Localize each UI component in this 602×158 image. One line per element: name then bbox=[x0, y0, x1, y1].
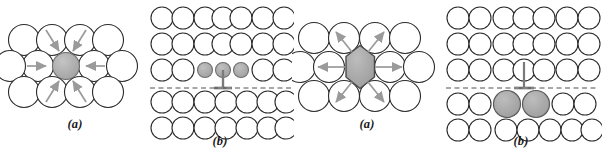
host-atom bbox=[578, 59, 600, 81]
host-atom bbox=[252, 33, 274, 55]
host-atom bbox=[151, 7, 173, 29]
panel-3-diagram bbox=[292, 0, 442, 130]
host-atom bbox=[273, 33, 294, 55]
host-atom bbox=[273, 7, 294, 29]
impurity-atom-large bbox=[494, 91, 521, 118]
host-atom bbox=[194, 91, 216, 113]
host-atom bbox=[493, 59, 515, 81]
host-atom bbox=[273, 59, 294, 81]
host-atom bbox=[299, 23, 330, 54]
host-atom bbox=[447, 33, 469, 55]
host-atom bbox=[578, 7, 600, 29]
figure-root: (a) bbox=[0, 0, 602, 158]
panel-smaller-atom-local: (a) bbox=[0, 0, 150, 158]
host-atom bbox=[151, 59, 173, 81]
host-atom bbox=[172, 7, 194, 29]
host-atom bbox=[299, 81, 330, 112]
impurity-atom-small bbox=[53, 53, 80, 80]
host-atom bbox=[533, 59, 555, 81]
panel-caption: (b) bbox=[146, 134, 294, 149]
panel-larger-atom-local: (a) bbox=[292, 0, 442, 158]
host-atom bbox=[493, 33, 515, 55]
host-atom bbox=[447, 7, 469, 29]
lattice-row bbox=[151, 91, 294, 113]
host-atom bbox=[556, 7, 578, 29]
host-atom bbox=[493, 7, 515, 29]
host-atom bbox=[172, 33, 194, 55]
host-atom bbox=[556, 33, 578, 55]
host-atom bbox=[93, 77, 124, 108]
host-atom bbox=[236, 91, 258, 113]
host-atom bbox=[533, 33, 555, 55]
panel-smaller-atom-lattice: (b) bbox=[146, 0, 294, 158]
host-atom bbox=[552, 93, 574, 115]
host-atom bbox=[390, 81, 421, 112]
host-atom bbox=[469, 7, 491, 29]
impurity-atom-small bbox=[198, 63, 213, 78]
host-atom bbox=[574, 93, 596, 115]
lattice-row bbox=[447, 33, 600, 55]
atom-row-bottom bbox=[9, 77, 124, 108]
host-atom bbox=[9, 77, 40, 108]
panel-2-diagram bbox=[146, 0, 294, 148]
host-atom bbox=[252, 7, 274, 29]
panel-1-diagram bbox=[0, 0, 150, 130]
panel-larger-atom-lattice: (b) bbox=[440, 0, 602, 158]
host-atom bbox=[151, 33, 173, 55]
host-atom bbox=[533, 7, 555, 29]
impurity-atom-small bbox=[234, 63, 249, 78]
panel-caption: (b) bbox=[440, 134, 602, 149]
host-atom bbox=[447, 59, 469, 81]
impurity-atom-large bbox=[523, 91, 550, 118]
host-atom bbox=[172, 59, 194, 81]
host-atom bbox=[172, 91, 194, 113]
host-atom bbox=[513, 7, 535, 29]
lattice-row-impurity bbox=[447, 91, 596, 118]
host-atom bbox=[447, 93, 469, 115]
host-atom bbox=[578, 33, 600, 55]
host-atom bbox=[151, 91, 173, 113]
panel-caption: (a) bbox=[0, 117, 150, 132]
panel-4-diagram bbox=[440, 0, 602, 148]
host-atom bbox=[252, 59, 274, 81]
panel-caption: (a) bbox=[292, 117, 442, 132]
host-atom bbox=[469, 33, 491, 55]
host-atom bbox=[215, 91, 237, 113]
lattice-row bbox=[151, 7, 294, 29]
host-atom bbox=[469, 93, 491, 115]
host-atom bbox=[513, 33, 535, 55]
host-atom bbox=[404, 52, 435, 83]
host-atom bbox=[230, 33, 252, 55]
lattice-row bbox=[151, 33, 294, 55]
host-atom bbox=[230, 7, 252, 29]
host-atom bbox=[292, 52, 316, 83]
atom-row-top bbox=[9, 25, 124, 56]
host-atom bbox=[556, 59, 578, 81]
host-atom bbox=[390, 23, 421, 54]
host-atom bbox=[469, 59, 491, 81]
lattice-row bbox=[447, 7, 600, 29]
